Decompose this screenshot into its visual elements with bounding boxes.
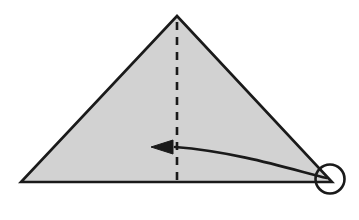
- origami-fold-diagram: Shaded triangular paper Dashed vertical …: [0, 0, 359, 220]
- origami-diagram-canvas: [0, 0, 359, 220]
